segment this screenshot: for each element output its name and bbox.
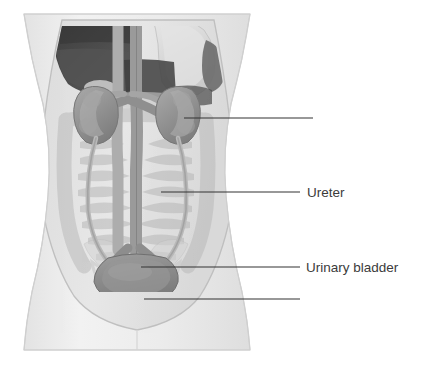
aorta <box>136 14 137 252</box>
kidney-right <box>74 86 119 144</box>
labels: Ureter Urinary bladder <box>306 185 399 275</box>
inferior-vena-cava <box>117 14 118 250</box>
kidney-left <box>156 86 201 144</box>
label-urinary-bladder: Urinary bladder <box>306 260 399 275</box>
label-ureter: Ureter <box>307 185 345 200</box>
urinary-system-diagram: Ureter Urinary bladder <box>0 0 422 367</box>
